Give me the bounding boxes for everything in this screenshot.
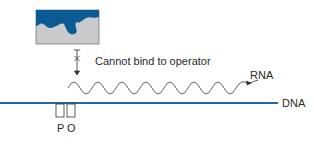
rna-arrowhead <box>246 81 252 86</box>
rna-label: RNA <box>250 70 273 81</box>
dna-label: DNA <box>282 98 305 109</box>
operator-box <box>67 104 75 117</box>
operator-label: O <box>67 123 76 134</box>
blocked-binding-arrow <box>74 50 80 75</box>
promoter-label: P <box>57 123 64 134</box>
cannot-bind-label: Cannot bind to operator <box>95 56 211 67</box>
promoter-box <box>56 104 64 117</box>
rna-transcript <box>68 80 258 94</box>
repressor-protein <box>36 10 99 44</box>
